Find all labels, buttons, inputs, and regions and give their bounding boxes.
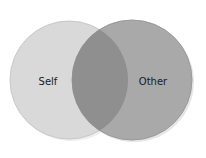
self-label: Self <box>39 76 58 87</box>
other-label: Other <box>139 76 167 87</box>
venn-graphic <box>0 0 206 158</box>
